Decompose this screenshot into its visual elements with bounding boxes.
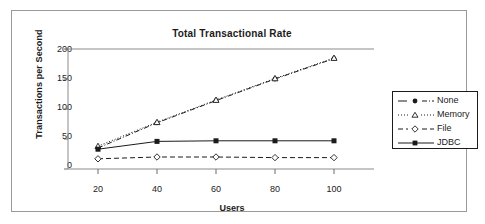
legend-key-memory — [397, 108, 435, 122]
legend-label-memory: Memory — [437, 109, 470, 119]
chart-outer-frame: Total Transactional Rate Transactions pe… — [11, 10, 467, 212]
series-memory — [95, 55, 337, 149]
chart-legend: None Memory File — [392, 91, 478, 149]
legend-item-none[interactable]: None — [393, 94, 479, 108]
legend-label-jdbc: JDBC — [437, 137, 461, 147]
series-jdbc — [96, 138, 337, 151]
legend-key-none — [397, 94, 435, 108]
series-none — [96, 56, 337, 150]
legend-item-file[interactable]: File — [393, 122, 479, 136]
legend-key-jdbc — [397, 136, 435, 150]
data-point — [332, 138, 337, 143]
legend-label-none: None — [437, 95, 459, 105]
data-series-layer — [95, 55, 337, 162]
legend-item-memory[interactable]: Memory — [393, 108, 479, 122]
plot-frame — [68, 49, 374, 169]
legend-key-file — [397, 122, 435, 136]
data-point — [213, 154, 219, 160]
data-point — [155, 139, 160, 144]
legend-item-jdbc[interactable]: JDBC — [393, 136, 479, 150]
series-line — [98, 59, 334, 148]
data-point — [95, 156, 101, 162]
y-axis-ticks — [64, 49, 68, 169]
series-file — [95, 154, 337, 162]
legend-label-file: File — [437, 123, 452, 133]
data-point — [273, 138, 278, 143]
data-point — [214, 138, 219, 143]
data-point — [96, 147, 101, 152]
x-axis-ticks — [98, 169, 334, 174]
data-point — [272, 154, 278, 160]
chart-figure: Total Transactional Rate Transactions pe… — [0, 0, 485, 224]
data-point — [331, 154, 337, 160]
data-point — [154, 154, 160, 160]
